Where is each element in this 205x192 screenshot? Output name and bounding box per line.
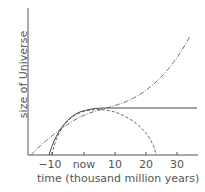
series-accelerating — [31, 36, 190, 155]
x-tick-label: 30 — [170, 158, 184, 171]
series-recollapsing — [52, 110, 156, 155]
x-tick-label: 20 — [139, 158, 153, 171]
x-tick-label: 10 — [108, 158, 122, 171]
x-tick-label: −10 — [38, 158, 61, 171]
y-axis-label: size of Universe — [17, 30, 30, 120]
x-axis-label: time (thousand million years) — [37, 172, 199, 185]
x-tick-label: now — [73, 158, 96, 171]
